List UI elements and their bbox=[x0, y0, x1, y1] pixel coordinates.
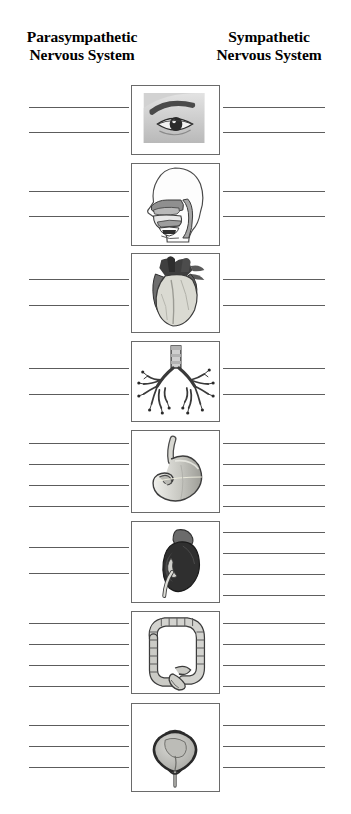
answer-line[interactable] bbox=[29, 279, 129, 280]
answer-line[interactable] bbox=[223, 506, 325, 507]
parasympathetic-answer-lines bbox=[29, 253, 129, 333]
bronchial-tree-icon bbox=[132, 342, 219, 421]
organ-image-box bbox=[131, 703, 220, 792]
answer-line[interactable] bbox=[223, 623, 325, 624]
row-eye bbox=[0, 85, 351, 155]
answer-line[interactable] bbox=[223, 595, 325, 596]
answer-line[interactable] bbox=[29, 767, 129, 768]
answer-line[interactable] bbox=[223, 107, 325, 108]
row-nasal-oral-cavity bbox=[0, 163, 351, 246]
organ-image-box bbox=[131, 430, 220, 513]
answer-line[interactable] bbox=[29, 216, 129, 217]
organ-image-box bbox=[131, 253, 220, 333]
answer-line[interactable] bbox=[223, 767, 325, 768]
worksheet-rows bbox=[0, 0, 351, 814]
sympathetic-answer-lines bbox=[223, 85, 325, 155]
answer-line[interactable] bbox=[223, 132, 325, 133]
answer-line[interactable] bbox=[223, 574, 325, 575]
answer-line[interactable] bbox=[29, 746, 129, 747]
answer-line[interactable] bbox=[29, 305, 129, 306]
large-intestine-icon bbox=[132, 612, 219, 693]
answer-line[interactable] bbox=[223, 686, 325, 687]
sympathetic-answer-lines bbox=[223, 611, 325, 694]
parasympathetic-answer-lines bbox=[29, 521, 129, 603]
answer-line[interactable] bbox=[223, 464, 325, 465]
sympathetic-answer-lines bbox=[223, 430, 325, 513]
answer-line[interactable] bbox=[223, 368, 325, 369]
answer-line[interactable] bbox=[29, 686, 129, 687]
answer-line[interactable] bbox=[29, 485, 129, 486]
parasympathetic-answer-lines bbox=[29, 611, 129, 694]
parasympathetic-answer-lines bbox=[29, 430, 129, 513]
parasympathetic-answer-lines bbox=[29, 85, 129, 155]
answer-line[interactable] bbox=[29, 725, 129, 726]
sympathetic-answer-lines bbox=[223, 253, 325, 333]
answer-line[interactable] bbox=[223, 485, 325, 486]
answer-line[interactable] bbox=[29, 547, 129, 548]
row-stomach bbox=[0, 430, 351, 513]
organ-image-box bbox=[131, 85, 220, 155]
head-profile-airway-icon bbox=[132, 164, 219, 245]
heart-icon bbox=[132, 254, 219, 332]
answer-line[interactable] bbox=[223, 443, 325, 444]
sympathetic-answer-lines bbox=[223, 163, 325, 246]
answer-line[interactable] bbox=[223, 553, 325, 554]
parasympathetic-answer-lines bbox=[29, 703, 129, 792]
bladder-icon bbox=[132, 704, 219, 791]
answer-line[interactable] bbox=[223, 746, 325, 747]
row-heart bbox=[0, 253, 351, 333]
answer-line[interactable] bbox=[223, 644, 325, 645]
answer-line[interactable] bbox=[29, 623, 129, 624]
row-lungs bbox=[0, 341, 351, 422]
row-bladder bbox=[0, 703, 351, 792]
organ-image-box bbox=[131, 611, 220, 694]
organ-image-box bbox=[131, 521, 220, 603]
answer-line[interactable] bbox=[29, 644, 129, 645]
answer-line[interactable] bbox=[29, 573, 129, 574]
answer-line[interactable] bbox=[223, 279, 325, 280]
organ-image-box bbox=[131, 163, 220, 246]
answer-line[interactable] bbox=[223, 532, 325, 533]
sympathetic-answer-lines bbox=[223, 521, 325, 603]
answer-line[interactable] bbox=[223, 725, 325, 726]
answer-line[interactable] bbox=[223, 191, 325, 192]
sympathetic-answer-lines bbox=[223, 341, 325, 422]
answer-line[interactable] bbox=[29, 368, 129, 369]
kidney-icon bbox=[132, 522, 219, 602]
stomach-icon bbox=[132, 431, 219, 512]
answer-line[interactable] bbox=[29, 107, 129, 108]
answer-line[interactable] bbox=[29, 443, 129, 444]
organ-image-box bbox=[131, 341, 220, 422]
answer-line[interactable] bbox=[29, 132, 129, 133]
answer-line[interactable] bbox=[223, 305, 325, 306]
eye-icon bbox=[132, 86, 219, 154]
row-large-intestine bbox=[0, 611, 351, 694]
answer-line[interactable] bbox=[29, 665, 129, 666]
parasympathetic-answer-lines bbox=[29, 163, 129, 246]
row-kidney bbox=[0, 521, 351, 603]
sympathetic-answer-lines bbox=[223, 703, 325, 792]
answer-line[interactable] bbox=[29, 464, 129, 465]
parasympathetic-answer-lines bbox=[29, 341, 129, 422]
answer-line[interactable] bbox=[223, 216, 325, 217]
answer-line[interactable] bbox=[29, 191, 129, 192]
answer-line[interactable] bbox=[223, 665, 325, 666]
answer-line[interactable] bbox=[29, 506, 129, 507]
answer-line[interactable] bbox=[223, 394, 325, 395]
answer-line[interactable] bbox=[29, 394, 129, 395]
